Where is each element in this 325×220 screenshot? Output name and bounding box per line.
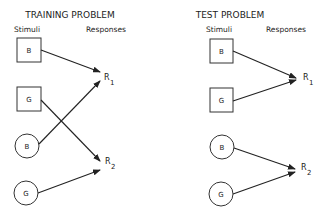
arrow-circle-b-to-r2 xyxy=(234,148,295,169)
stimulus-circle-b: B xyxy=(210,135,234,159)
arrow-circle-g-to-r2 xyxy=(38,170,100,193)
arrow-square-b-to-r1 xyxy=(41,50,100,72)
arrow-square-g-to-r2 xyxy=(41,100,100,161)
arrow-circle-b-to-r1 xyxy=(39,81,100,144)
response-r2: R 2 xyxy=(105,157,115,171)
svg-text:1: 1 xyxy=(110,79,114,87)
response-r2: R 2 xyxy=(301,163,311,177)
svg-text:G: G xyxy=(219,97,224,105)
training-panel: TRAINING PROBLEM Stimuli Responses B G B… xyxy=(14,10,126,205)
arrow-square-g-to-r1 xyxy=(233,80,296,101)
diagram-canvas: TRAINING PROBLEM Stimuli Responses B G B… xyxy=(0,0,325,220)
svg-text:G: G xyxy=(218,191,223,199)
stimulus-square-b: B xyxy=(210,39,233,63)
stimulus-square-b: B xyxy=(17,38,41,62)
responses-header: Responses xyxy=(86,25,126,34)
test-panel: TEST PROBLEM Stimuli Responses B G B G R… xyxy=(195,10,314,206)
stimulus-circle-g: G xyxy=(209,182,233,206)
arrow-square-b-to-r1 xyxy=(233,51,296,78)
stimulus-square-g: G xyxy=(17,87,41,111)
svg-text:2: 2 xyxy=(307,169,311,177)
stimulus-circle-g: G xyxy=(14,181,38,205)
arrow-circle-g-to-r2 xyxy=(233,172,295,194)
svg-text:B: B xyxy=(25,143,30,151)
responses-header: Responses xyxy=(266,25,306,34)
svg-text:B: B xyxy=(220,144,225,152)
stimuli-header: Stimuli xyxy=(14,25,40,34)
svg-text:2: 2 xyxy=(111,163,115,171)
response-r1: R 1 xyxy=(303,73,313,87)
stimulus-square-g: G xyxy=(210,88,233,112)
stimuli-header: Stimuli xyxy=(206,25,232,34)
response-r1: R 1 xyxy=(104,73,114,87)
stimulus-circle-b: B xyxy=(15,134,39,158)
svg-text:B: B xyxy=(219,48,224,56)
panel-title: TRAINING PROBLEM xyxy=(24,10,115,20)
svg-text:G: G xyxy=(26,96,31,104)
svg-text:1: 1 xyxy=(309,79,313,87)
svg-text:B: B xyxy=(27,47,32,55)
svg-text:G: G xyxy=(23,190,28,198)
panel-title: TEST PROBLEM xyxy=(195,10,265,20)
